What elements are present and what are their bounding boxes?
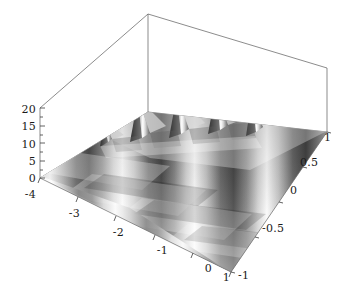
y-tick-label-1: 1 (324, 132, 331, 143)
x-tick-label-1: 1 (223, 272, 230, 283)
z-tick-label-5: 5 (29, 156, 36, 167)
y-tick-label-0: 0 (290, 185, 297, 196)
y-tick-label-0p5: 0.5 (300, 157, 318, 168)
x-tick-label-neg1: -1 (157, 245, 168, 256)
plot-canvas (0, 0, 342, 286)
x-tick-label-neg4: -4 (25, 189, 36, 200)
y-tick-label-neg1: -1 (238, 270, 249, 281)
x-tick-label-neg3: -3 (69, 208, 80, 219)
y-tick-label-neg0p5: -0.5 (262, 223, 284, 234)
z-tick-label-15: 15 (21, 121, 36, 132)
x-tick-label-neg2: -2 (113, 227, 124, 238)
z-tick-label-10: 10 (21, 139, 36, 150)
x-tick-label-0: 0 (205, 263, 212, 274)
surface-plot-figure: 20 15 10 5 0 -4 -3 -2 -1 0 1 -1 -0.5 0 0… (0, 0, 342, 286)
z-tick-label-0: 0 (29, 173, 36, 184)
z-tick-label-20: 20 (21, 104, 36, 115)
